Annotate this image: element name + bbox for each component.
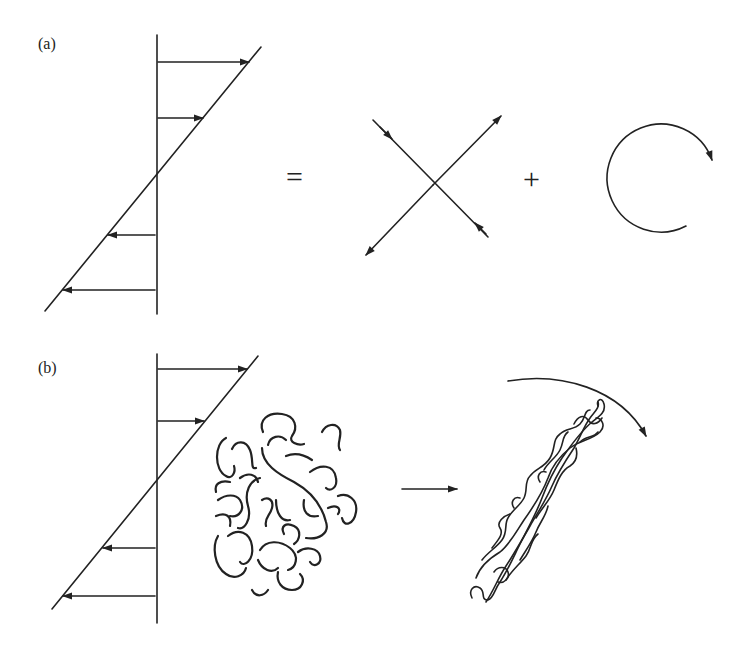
outward-arrow-top-right-icon — [433, 116, 501, 185]
plus-sign: + — [523, 162, 540, 195]
shear-profile-a — [45, 35, 261, 314]
curved-rotation-arrow-icon — [508, 379, 646, 436]
random-coil-polymer-icon — [215, 414, 357, 596]
outward-arrow-bottom-left-icon — [366, 185, 433, 255]
velocity-profile-line — [45, 47, 261, 311]
equals-sign: = — [286, 160, 303, 193]
stretched-coil-polymer-icon — [471, 400, 605, 602]
rotation-icon — [607, 124, 712, 232]
extensional-flow-icon — [366, 116, 501, 255]
shear-profile-b — [52, 354, 258, 623]
inward-arrow-bottom-right-icon — [475, 223, 486, 234]
panel-b: (b) — [38, 354, 646, 623]
panel-a-label: (a) — [38, 35, 56, 53]
panel-a: (a) = + — [38, 35, 712, 314]
shear-flow-diagram: (a) = + (b) — [0, 0, 748, 649]
panel-b-label: (b) — [38, 359, 57, 377]
clockwise-rotation-arrow-icon — [607, 124, 712, 232]
inward-arrow-top-left-icon — [380, 127, 392, 139]
